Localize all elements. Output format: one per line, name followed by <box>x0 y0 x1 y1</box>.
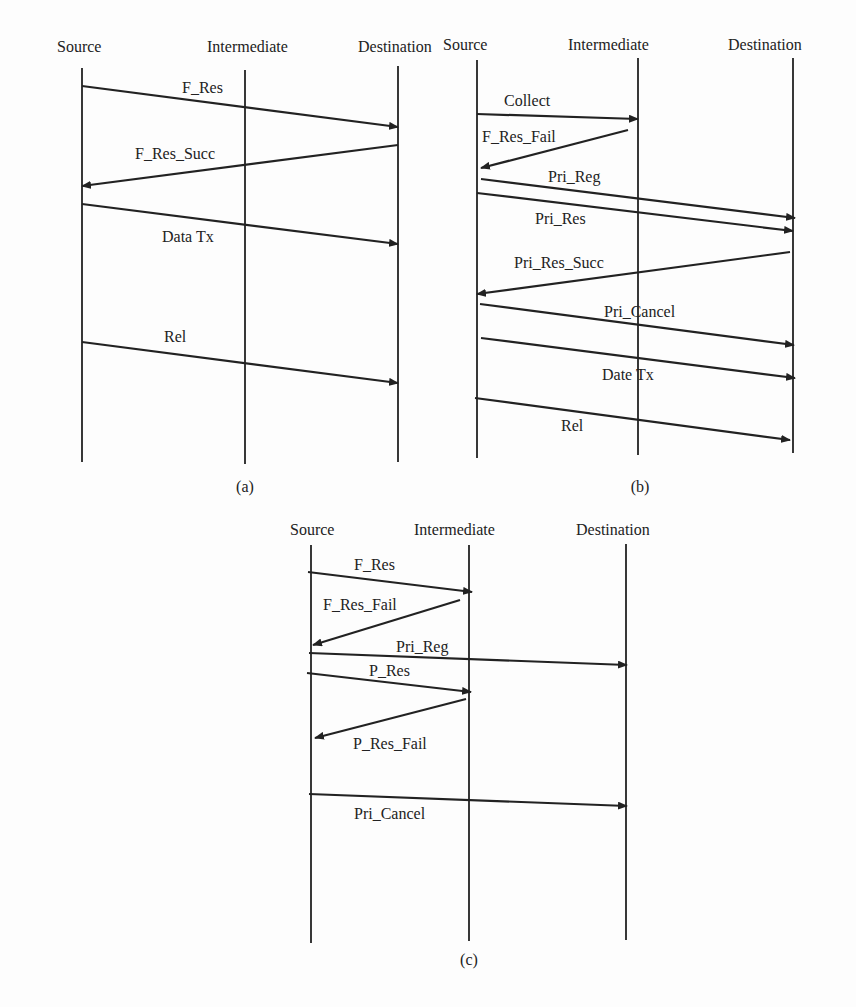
lifeline-label-source: Source <box>290 521 334 538</box>
message-arrow <box>82 342 398 383</box>
message-label: Pri_Res_Succ <box>514 254 604 271</box>
message-arrow <box>475 398 790 440</box>
message-arrow <box>82 86 398 127</box>
lifeline-label-destination: Destination <box>358 38 432 55</box>
panel-caption: (c) <box>460 951 478 969</box>
lifeline-label-source: Source <box>443 36 487 53</box>
lifeline-label-intermediate: Intermediate <box>414 521 495 538</box>
panel-c: SourceIntermediateDestinationF_ResF_Res_… <box>290 521 650 969</box>
message-label: Date Tx <box>602 366 654 383</box>
message-label: Pri_Reg <box>396 638 448 656</box>
message-arrow <box>82 204 398 244</box>
message-label: Collect <box>504 92 551 109</box>
diagram-svg: SourceIntermediateDestinationF_ResF_Res_… <box>0 0 856 1007</box>
message-arrow <box>477 114 638 119</box>
message-label: Data Tx <box>162 228 214 245</box>
message-label: Pri_Cancel <box>354 805 426 822</box>
lifeline-label-intermediate: Intermediate <box>207 38 288 55</box>
lifeline-label-intermediate: Intermediate <box>568 36 649 53</box>
message-label: F_Res_Fail <box>482 128 556 145</box>
message-label: Pri_Reg <box>548 168 600 186</box>
panel-caption: (a) <box>236 478 254 496</box>
message-arrow <box>308 572 472 592</box>
panel-a: SourceIntermediateDestinationF_ResF_Res_… <box>57 38 432 496</box>
panel-b: SourceIntermediateDestinationCollectF_Re… <box>443 36 802 496</box>
panel-caption: (b) <box>631 478 650 496</box>
lifeline-label-source: Source <box>57 38 101 55</box>
message-label: F_Res <box>182 79 223 96</box>
message-label: F_Res_Fail <box>323 596 397 613</box>
message-label: F_Res <box>354 556 395 573</box>
lifeline-label-destination: Destination <box>576 521 650 538</box>
message-arrow <box>82 145 398 186</box>
message-label: Rel <box>164 328 187 345</box>
lifeline-label-destination: Destination <box>728 36 802 53</box>
message-label: F_Res_Succ <box>135 145 215 162</box>
message-label: Pri_Cancel <box>604 303 676 320</box>
message-arrow <box>315 699 466 738</box>
sequence-diagram-figure: SourceIntermediateDestinationF_ResF_Res_… <box>0 0 856 1007</box>
message-label: Pri_Res <box>535 210 586 227</box>
message-arrow <box>309 653 627 665</box>
message-label: P_Res <box>369 662 410 679</box>
message-label: Rel <box>561 417 584 434</box>
message-label: P_Res_Fail <box>353 735 427 752</box>
